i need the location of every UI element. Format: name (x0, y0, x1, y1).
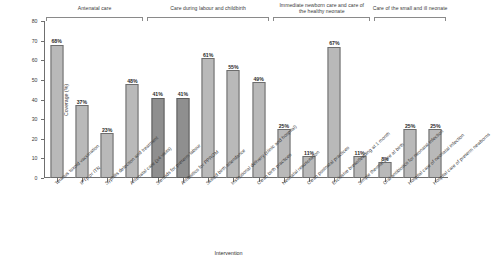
bar-value-label: 23% (102, 127, 112, 133)
bar-slot: 23% (95, 21, 120, 178)
y-tick: 0 (41, 178, 45, 179)
bar-value-label: 61% (203, 52, 213, 58)
bar-slot: 25% (271, 21, 296, 178)
bar-value-label: 25% (279, 123, 289, 129)
bar-value-label: 25% (405, 123, 415, 129)
bar-value-label: 49% (253, 76, 263, 82)
y-tick-label: 20 (32, 136, 38, 142)
bar-value-label: 68% (51, 38, 61, 44)
bar-value-label: 25% (430, 123, 440, 129)
y-tick-label: 70 (32, 38, 38, 44)
group-label: Care of the small and ill neonate (360, 5, 460, 11)
bar-value-label: 41% (178, 91, 188, 97)
bar-value-label: 67% (329, 40, 339, 46)
x-axis-label: Intervention (0, 250, 457, 256)
bar-slot: 68% (44, 21, 69, 178)
y-tick-label: 80 (32, 18, 38, 24)
y-tick-label: 60 (32, 57, 38, 63)
group-label: Care during labour and childbirth (148, 5, 268, 11)
group-label: Antenatal care (58, 5, 132, 11)
y-tick-label: 10 (32, 155, 38, 161)
bar-value-label: 55% (228, 64, 238, 70)
y-tick-label: 0 (35, 175, 38, 181)
bar-value-label: 48% (127, 78, 137, 84)
bar-value-label: 41% (152, 91, 162, 97)
y-tick-label: 40 (32, 97, 38, 103)
bar-value-label: 37% (77, 99, 87, 105)
y-tick-label: 50 (32, 77, 38, 83)
y-tick-label: 30 (32, 116, 38, 122)
group-label: Immediate newborn care and care of the h… (276, 2, 368, 14)
bar: 68% (50, 45, 63, 178)
bar: 23% (101, 133, 114, 178)
